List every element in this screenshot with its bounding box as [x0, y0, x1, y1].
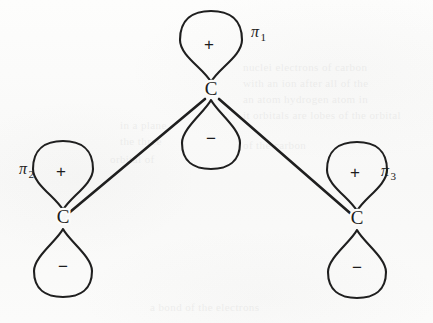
lobe-sign-group: +−+−+−: [56, 35, 362, 277]
lobe-sign-pi3-up: +: [350, 163, 360, 182]
atom-label-right: C: [351, 207, 364, 228]
orbital-diagram-figure: nuclei electrons of carbonwith an ion af…: [0, 0, 433, 323]
diagram-canvas: +−+−+− CCCCCC π1π2π3: [0, 0, 433, 323]
bond-group: [70, 99, 350, 213]
orbital-label-pi3: π3: [381, 162, 397, 182]
lobe-sign-pi2-down: −: [58, 257, 68, 276]
lobe-sign-pi1-down: −: [206, 129, 216, 148]
lobe-sign-pi3-down: −: [352, 258, 362, 277]
lobe-sign-pi1-up: +: [204, 35, 214, 54]
atom-label-left: C: [57, 206, 70, 227]
atom-label-top: C: [205, 78, 218, 99]
lobe-sign-pi2-up: +: [56, 162, 66, 181]
orbital-label-pi1: π1: [251, 23, 266, 43]
orbital-label-pi2: π2: [19, 160, 34, 180]
